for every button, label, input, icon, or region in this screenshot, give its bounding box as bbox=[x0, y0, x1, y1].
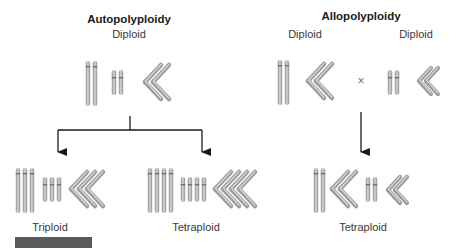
auto-diploid-label: Diploid bbox=[112, 28, 146, 40]
allo-parent2-chromosomes bbox=[388, 67, 438, 95]
triploid-chromosomes bbox=[16, 168, 103, 213]
auto-diploid-chromosomes bbox=[86, 61, 169, 106]
allo-parent1-chromosomes bbox=[278, 60, 332, 105]
auto-tetraploid-label: Tetraploid bbox=[172, 221, 220, 233]
auto-tetraploid-chromosomes bbox=[148, 168, 255, 213]
allopolyploidy-title: Allopolyploidy bbox=[321, 10, 400, 22]
allo-parent2-label: Diploid bbox=[399, 28, 433, 40]
allo-tetraploid-chromosomes bbox=[314, 168, 407, 213]
auto-branch-arrows bbox=[58, 116, 202, 152]
footer-bar bbox=[15, 237, 92, 248]
allo-parent1-label: Diploid bbox=[288, 28, 322, 40]
cross-symbol: × bbox=[357, 75, 364, 87]
triploid-label: Triploid bbox=[32, 221, 68, 233]
autopolyploidy-title: Autopolyploidy bbox=[87, 13, 171, 25]
allo-tetraploid-label: Tetraploid bbox=[339, 221, 387, 233]
polyploidy-diagram bbox=[0, 0, 457, 248]
